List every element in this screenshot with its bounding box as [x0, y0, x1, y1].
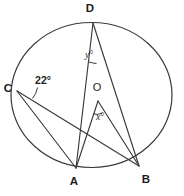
angle-label-x: x° [95, 112, 104, 122]
chord-DB [93, 23, 139, 166]
radius-OB [98, 101, 139, 166]
circle-geometry-figure: D C A B O 22° y° x° [0, 0, 184, 196]
point-label-A: A [70, 175, 78, 187]
point-label-C: C [4, 82, 12, 94]
point-label-B: B [142, 173, 150, 185]
chord-DA [76, 23, 93, 168]
point-label-D: D [86, 2, 94, 14]
angle-arc-at-C [33, 88, 38, 99]
angle-arc-at-D [89, 62, 97, 64]
radius-OA [76, 101, 98, 168]
geometry-canvas: D C A B O 22° y° x° [0, 0, 184, 196]
point-label-O: O [93, 81, 102, 93]
angle-label-y: y° [84, 50, 93, 60]
chord-CA [17, 91, 76, 168]
angle-label-22-degrees: 22° [35, 74, 51, 86]
